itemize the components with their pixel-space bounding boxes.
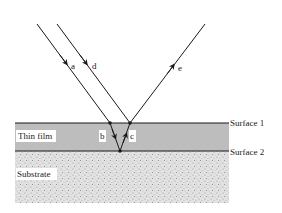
ray-a [37,24,110,123]
ray-b-label: b [100,131,105,141]
point-bc-surface2 [118,149,122,153]
thin-film-diagram: a d e b c Thin film Substrate Surface 1 … [0,0,282,213]
thin-film-label: Thin film [18,131,52,141]
ray-d-label: d [92,61,97,71]
ray-d-arrow [80,55,86,63]
ray-a-label: a [71,61,75,71]
point-a-surface1 [108,121,112,125]
point-de-surface1 [128,121,132,125]
ray-c-label: c [130,131,134,141]
substrate-label: Substrate [17,169,51,179]
ray-a-arrow [60,55,66,63]
ray-d [57,24,130,123]
surface-2-label: Surface 2 [230,147,264,157]
ray-e-arrow [167,66,173,74]
ray-e-label: e [178,63,182,73]
surface-1-label: Surface 1 [230,118,264,128]
